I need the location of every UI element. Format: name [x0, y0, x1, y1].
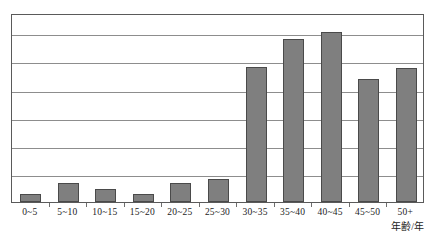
bars-layer [12, 15, 423, 202]
category-label-20-25: 20~25 [161, 206, 199, 218]
category-label-50-: 50+ [386, 206, 424, 218]
category-label-30-35: 30~35 [236, 206, 274, 218]
category-label-10-15: 10~15 [86, 206, 124, 218]
category-label-25-30: 25~30 [199, 206, 237, 218]
category-label-45-50: 45~50 [349, 206, 387, 218]
bar-chart: 0~55~1010~1515~2020~2525~3030~3535~4040~… [0, 0, 435, 240]
category-label-5-10: 5~10 [49, 206, 87, 218]
bar [396, 68, 417, 202]
bar [58, 183, 79, 202]
bar [20, 194, 41, 202]
bar [95, 189, 116, 202]
x-axis-caption: 年齢/年 [391, 221, 424, 233]
bar [321, 32, 342, 202]
category-label-0-5: 0~5 [11, 206, 49, 218]
bar [246, 67, 267, 202]
category-label-40-45: 40~45 [311, 206, 349, 218]
plot-area [11, 14, 424, 203]
bar [283, 39, 304, 202]
bar [208, 179, 229, 202]
category-label-15-20: 15~20 [124, 206, 162, 218]
bar [133, 194, 154, 202]
category-label-35-40: 35~40 [274, 206, 312, 218]
bar [358, 79, 379, 202]
bar [170, 183, 191, 202]
